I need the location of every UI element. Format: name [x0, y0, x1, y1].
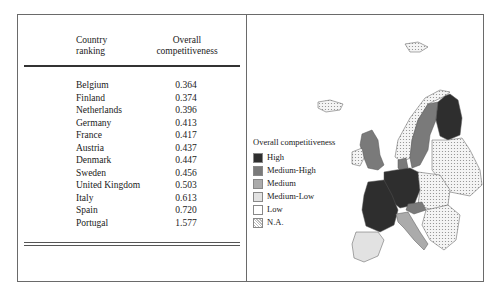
- header-overall-competitiveness: Overall competitiveness: [147, 35, 227, 57]
- header-country-line2: ranking: [76, 46, 107, 57]
- header-country-line1: Country: [76, 35, 107, 46]
- country-name: Spain: [76, 204, 98, 217]
- legend-label: N.A.: [267, 216, 284, 229]
- footer-rule-top: [24, 242, 240, 243]
- header-value-line1: Overall: [147, 35, 227, 46]
- swatch-na: [253, 218, 263, 228]
- europe-map: [300, 30, 485, 280]
- swatch-medium-low: [253, 192, 263, 202]
- italy: [396, 212, 428, 250]
- country-name: France: [76, 129, 102, 142]
- iceland: [318, 100, 343, 112]
- table-row: Belgium0.364: [76, 79, 236, 92]
- competitiveness-value: 0.447: [170, 154, 202, 167]
- competitiveness-value: 1.577: [170, 217, 202, 230]
- competitiveness-value: 0.613: [170, 192, 202, 205]
- country-name: Germany: [76, 117, 111, 130]
- table-row: Denmark0.447: [76, 154, 236, 167]
- country-name: Italy: [76, 192, 93, 205]
- swatch-medium-high: [253, 166, 263, 176]
- country-name: United Kingdom: [76, 179, 140, 192]
- swatch-high: [253, 153, 263, 163]
- swatch-low: [253, 205, 263, 215]
- legend-label: Low: [267, 203, 283, 216]
- legend-label: High: [267, 151, 284, 164]
- header-value-line2: competitiveness: [147, 46, 227, 57]
- table-row: Italy0.613: [76, 192, 236, 205]
- iberia: [352, 232, 384, 262]
- footer-rule-bottom: [24, 245, 240, 246]
- table-row: Germany0.413: [76, 117, 236, 130]
- header-rule: [24, 65, 240, 67]
- table-row: Finland0.374: [76, 92, 236, 105]
- table-row: United Kingdom0.503: [76, 179, 236, 192]
- united-kingdom: [360, 130, 384, 170]
- country-name: Belgium: [76, 79, 109, 92]
- country-name: Austria: [76, 142, 104, 155]
- country-name: Portugal: [76, 217, 108, 230]
- ranking-table: Belgium0.364 Finland0.374 Netherlands0.3…: [76, 79, 236, 230]
- competitiveness-value: 0.417: [170, 129, 202, 142]
- finland: [436, 94, 462, 140]
- panel-divider: [246, 14, 247, 282]
- austria: [406, 202, 426, 214]
- table-row: Sweden0.456: [76, 167, 236, 180]
- table-row: Portugal1.577: [76, 217, 236, 230]
- competitiveness-value: 0.413: [170, 117, 202, 130]
- table-row: Spain0.720: [76, 204, 236, 217]
- country-name: Sweden: [76, 167, 106, 180]
- country-name: Finland: [76, 92, 105, 105]
- competitiveness-value: 0.720: [170, 204, 202, 217]
- swatch-medium: [253, 179, 263, 189]
- legend-label: Medium: [267, 177, 296, 190]
- table-row: France0.417: [76, 129, 236, 142]
- table-row: Netherlands0.396: [76, 104, 236, 117]
- country-name: Netherlands: [76, 104, 122, 117]
- ireland: [352, 148, 364, 166]
- competitiveness-value: 0.364: [170, 79, 202, 92]
- svalbard: [405, 42, 428, 52]
- competitiveness-value: 0.374: [170, 92, 202, 105]
- competitiveness-value: 0.396: [170, 104, 202, 117]
- competitiveness-value: 0.437: [170, 142, 202, 155]
- competitiveness-value: 0.456: [170, 167, 202, 180]
- competitiveness-value: 0.503: [170, 179, 202, 192]
- header-country-ranking: Country ranking: [76, 35, 107, 57]
- table-row: Austria0.437: [76, 142, 236, 155]
- country-name: Denmark: [76, 154, 111, 167]
